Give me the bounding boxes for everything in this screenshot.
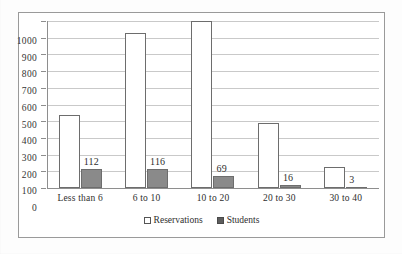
y-axis-tick (41, 138, 46, 139)
y-axis-tick (41, 71, 46, 72)
y-axis-tick-label: 500 (22, 120, 37, 130)
data-label-students: 16 (283, 172, 293, 183)
legend-item[interactable]: Reservations (144, 215, 203, 225)
bar-group: 69 (180, 21, 246, 188)
data-label-students: 69 (216, 163, 226, 174)
y-axis-tick (41, 121, 46, 122)
bar-reservations[interactable] (324, 167, 345, 188)
y-axis-tick-label: 0 (32, 203, 37, 213)
legend-item[interactable]: Students (217, 215, 260, 225)
bar-students[interactable] (213, 176, 234, 188)
bar-series-container: 11211669163 (47, 21, 379, 188)
bar-group: 112 (47, 21, 113, 188)
y-axis-tick (41, 105, 46, 106)
y-axis-tick-label: 400 (22, 136, 37, 146)
plot-area: 11211669163 (47, 21, 379, 188)
y-axis-tick (41, 21, 46, 22)
y-axis-tick (41, 188, 46, 189)
x-axis-category-label: 20 to 30 (263, 193, 296, 203)
x-axis-category-label: Less than 6 (57, 193, 102, 203)
hollow-square-icon (144, 217, 151, 224)
filled-square-icon (217, 217, 224, 224)
y-axis-tick-label: 800 (22, 69, 37, 79)
y-axis-tick (41, 88, 46, 89)
legend-item-label: Reservations (154, 215, 203, 225)
bar-reservations[interactable] (125, 33, 146, 188)
y-axis-tick (41, 38, 46, 39)
y-axis-tick (41, 54, 46, 55)
bar-students[interactable] (346, 187, 367, 188)
legend-item-label: Students (227, 215, 260, 225)
y-axis-tick-label: 1000 (17, 36, 37, 46)
x-axis-category-label: 6 to 10 (133, 193, 161, 203)
y-axis-tick-label: 900 (22, 53, 37, 63)
x-axis-category-label: 10 to 20 (197, 193, 230, 203)
y-axis-tick-label: 700 (22, 86, 37, 96)
axis-baseline (47, 188, 379, 189)
chart-frame: 01002003004005006007008009001000 1121166… (18, 12, 385, 238)
bar-students[interactable] (81, 169, 102, 188)
y-axis-tick-label: 200 (22, 170, 37, 180)
data-label-students: 116 (150, 156, 165, 167)
bar-students[interactable] (147, 169, 168, 188)
bar-group: 16 (246, 21, 312, 188)
bar-reservations[interactable] (258, 123, 279, 188)
data-label-students: 112 (84, 156, 99, 167)
chart-legend: ReservationsStudents (19, 215, 384, 225)
y-axis-tick-label: 100 (22, 186, 37, 196)
y-axis-tick-label: 600 (22, 103, 37, 113)
y-axis-tick (41, 155, 46, 156)
x-axis-category-label: 30 to 40 (329, 193, 362, 203)
bar-group: 116 (113, 21, 179, 188)
bar-reservations[interactable] (191, 21, 212, 188)
data-label-students: 3 (349, 174, 354, 185)
bar-group: 3 (313, 21, 379, 188)
y-axis-tick (41, 171, 46, 172)
bar-reservations[interactable] (59, 115, 80, 188)
x-axis-category-labels: Less than 66 to 1010 to 2020 to 3030 to … (47, 193, 379, 209)
bar-students[interactable] (280, 185, 301, 188)
y-axis-tick-label: 300 (22, 153, 37, 163)
